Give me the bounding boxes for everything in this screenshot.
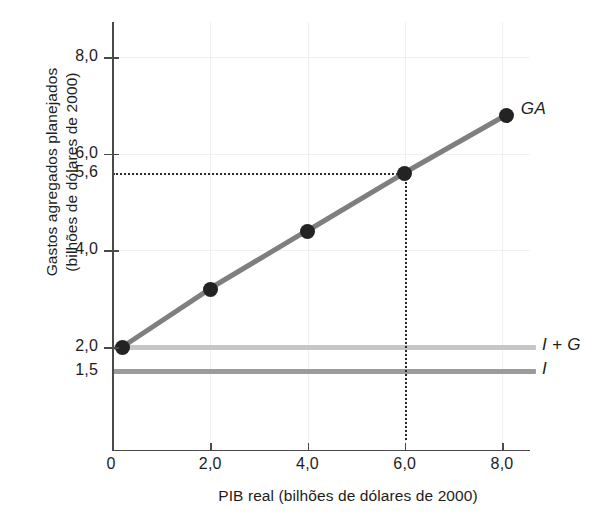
gridline-horizontal <box>113 250 530 251</box>
y-tick-mark <box>104 250 119 252</box>
data-point-marker <box>397 166 412 181</box>
x-tick-mark <box>405 443 407 451</box>
aggregate-expenditure-chart: Gastos agregados planejados (bilhões de … <box>0 0 596 529</box>
gridline-horizontal <box>113 57 530 58</box>
y-tick-mark <box>104 57 119 59</box>
y-tick-label: 6,0 <box>52 144 98 162</box>
x-tick-label: 2,0 <box>180 455 240 473</box>
data-point-marker <box>300 224 315 239</box>
series-label-ga: GA <box>521 99 546 119</box>
x-axis-line <box>112 450 530 452</box>
x-tick-label: 8,0 <box>472 455 532 473</box>
y-tick-label: 2,0 <box>52 337 98 355</box>
y-tick-label: 1,5 <box>52 361 98 379</box>
series-line-i <box>113 369 536 374</box>
y-tick-mark <box>104 154 119 156</box>
data-point-marker <box>499 108 514 123</box>
y-tick-label: 5,6 <box>52 163 98 181</box>
x-tick-label: 6,0 <box>375 455 435 473</box>
x-tick-label: 0 <box>81 455 141 473</box>
series-label-i: I <box>542 359 547 379</box>
y-axis-line <box>112 22 114 451</box>
ga-line-segment <box>209 229 309 292</box>
y-tick-label: 4,0 <box>52 240 98 258</box>
ga-line-segment <box>121 287 211 349</box>
equilibrium-guide-horizontal <box>113 173 405 175</box>
y-tick-mark <box>104 347 119 349</box>
x-axis-title: PIB real (bilhões de dólares de 2000) <box>113 487 583 505</box>
ga-line-segment <box>306 171 406 234</box>
series-line-i-g <box>113 345 536 350</box>
y-tick-label: 8,0 <box>52 47 98 65</box>
x-tick-mark <box>210 443 212 451</box>
series-label-i-plus-g: I + G <box>542 335 581 355</box>
gridline-horizontal <box>113 154 530 155</box>
gridline-vertical <box>502 22 503 450</box>
ga-line-segment <box>403 113 508 176</box>
gridline-vertical <box>210 22 211 450</box>
x-tick-label: 4,0 <box>278 455 338 473</box>
x-tick-mark <box>308 443 310 451</box>
equilibrium-guide-vertical <box>405 173 407 440</box>
data-point-marker <box>203 282 218 297</box>
x-tick-mark <box>502 443 504 451</box>
